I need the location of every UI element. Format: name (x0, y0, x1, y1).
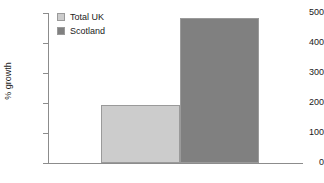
bar-total-uk (101, 105, 180, 163)
chart-legend: Total UK Scotland (57, 10, 105, 38)
bar-chart: 0100200300400500 % growth Total UK Scotl… (0, 0, 324, 183)
legend-label-scotland: Scotland (70, 26, 105, 36)
legend-swatch-scotland (57, 27, 65, 35)
legend-label-total-uk: Total UK (70, 12, 104, 22)
legend-item-total-uk: Total UK (57, 10, 105, 23)
legend-swatch-total-uk (57, 13, 65, 21)
x-axis-line (48, 163, 303, 164)
legend-item-scotland: Scotland (57, 24, 105, 37)
bar-scotland (180, 18, 259, 163)
y-axis-title: % growth (3, 51, 13, 111)
